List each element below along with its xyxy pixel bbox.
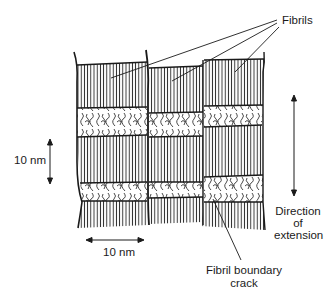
horizontal-scale-label: 10 nm — [103, 246, 135, 259]
crystalline-lamella — [149, 197, 203, 224]
crystalline-lamella — [78, 201, 148, 228]
crystalline-lamella — [77, 135, 147, 183]
direction-of-extension-arrow — [292, 95, 297, 196]
amorphous-region — [149, 182, 203, 198]
fibril-column-1 — [74, 52, 148, 228]
crystalline-lamella — [149, 136, 203, 182]
amorphous-region — [204, 175, 263, 202]
crystalline-lamella — [204, 59, 264, 106]
crack-label: Fibril boundary crack — [206, 264, 282, 290]
crystalline-lamella — [149, 66, 203, 113]
crystalline-lamella — [201, 202, 265, 230]
crystalline-lamella — [204, 125, 263, 177]
horizontal-scale-arrow — [86, 238, 144, 243]
direction-label: Direction of extension — [274, 205, 322, 242]
amorphous-region — [149, 112, 203, 137]
amorphous-region — [80, 182, 147, 201]
fibril-column-3 — [201, 52, 265, 230]
amorphous-region — [204, 105, 263, 127]
fibril-column-2 — [146, 50, 203, 225]
fibril-diagram — [0, 0, 332, 296]
vertical-scale-arrow — [48, 139, 53, 184]
direction-label-line3: extension — [274, 229, 322, 242]
fibrils-label: Fibrils — [282, 14, 313, 27]
vertical-scale-label: 10 nm — [14, 154, 46, 167]
crack-label-line2: crack — [206, 277, 282, 290]
crack-label-line1: Fibril boundary — [206, 264, 282, 277]
amorphous-region — [77, 107, 147, 137]
